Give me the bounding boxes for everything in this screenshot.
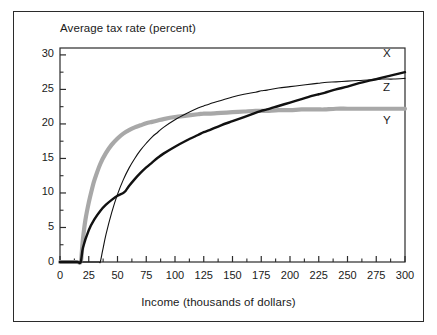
y-tick-label-25: 25 bbox=[24, 82, 54, 94]
series-label-y: Y bbox=[383, 114, 391, 126]
y-tick-label-30: 30 bbox=[24, 47, 54, 59]
plot-area bbox=[0, 0, 437, 335]
y-tick-label-15: 15 bbox=[24, 151, 54, 163]
series-label-z: Z bbox=[383, 81, 390, 93]
y-tick-label-10: 10 bbox=[24, 185, 54, 197]
plot-frame bbox=[60, 48, 405, 262]
figure: Average tax rate (percent) 051015202530 … bbox=[0, 0, 437, 335]
x-tick-label-300: 300 bbox=[385, 269, 425, 281]
y-tick-label-5: 5 bbox=[24, 220, 54, 232]
y-tick-label-20: 20 bbox=[24, 116, 54, 128]
x-axis-title: Income (thousands of dollars) bbox=[0, 296, 437, 308]
series-label-x: X bbox=[383, 47, 391, 59]
y-tick-label-0: 0 bbox=[24, 255, 54, 267]
